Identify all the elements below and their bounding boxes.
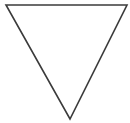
canvas-background [0,0,130,123]
drawing-canvas [0,0,130,123]
triangle-figure [0,0,130,123]
